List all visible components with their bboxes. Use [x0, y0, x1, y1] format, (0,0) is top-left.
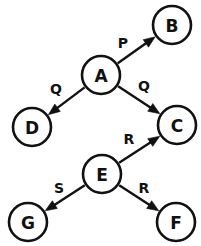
edge-label-e-f: R [139, 180, 150, 196]
node-c[interactable]: C [158, 106, 196, 144]
node-label-a: A [94, 66, 108, 86]
node-label-c: C [171, 116, 183, 136]
edge-label-e-c: R [124, 131, 135, 147]
arrowhead-icon [147, 201, 159, 211]
node-d[interactable]: D [13, 108, 51, 146]
arrowhead-icon [148, 104, 160, 114]
graph-diagram: ABCDEFG PQQRSR [0, 0, 201, 246]
node-f[interactable]: F [157, 203, 195, 241]
node-label-d: D [25, 118, 39, 138]
node-g[interactable]: G [9, 203, 47, 241]
node-e[interactable]: E [83, 155, 121, 193]
edge-label-a-d: Q [50, 81, 62, 97]
arrowhead-icon [45, 201, 57, 211]
edge-label-e-g: S [54, 180, 64, 196]
node-label-g: G [21, 213, 35, 233]
graph-canvas: ABCDEFG PQQRSR [0, 0, 201, 246]
edge-label-a-c: Q [138, 78, 150, 94]
edge-label-a-b: P [118, 35, 128, 51]
arrowhead-icon [148, 136, 160, 146]
node-label-e: E [96, 165, 108, 185]
node-a[interactable]: A [82, 56, 120, 94]
arrowhead-icon [143, 37, 155, 47]
node-label-b: B [166, 16, 179, 36]
edge-e-to-g [45, 185, 85, 211]
node-label-f: F [170, 213, 182, 233]
node-b[interactable]: B [153, 6, 191, 44]
nodes-layer: ABCDEFG [9, 6, 196, 241]
